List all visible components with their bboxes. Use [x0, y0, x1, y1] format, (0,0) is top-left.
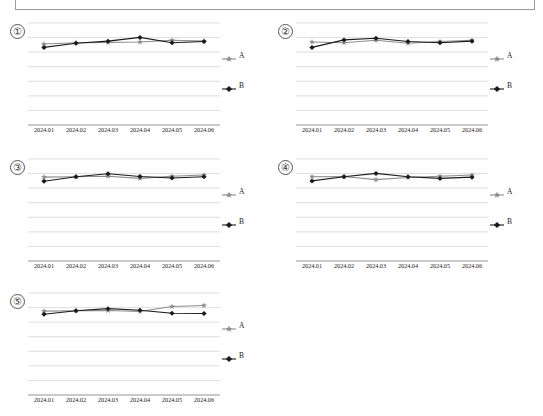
plot-area-1	[28, 22, 220, 126]
x-tick-label: 2024.05	[424, 262, 456, 274]
x-tick-label: 2024.01	[296, 126, 328, 138]
legend-label-b: B	[239, 81, 244, 90]
x-tick-label: 2024.04	[392, 126, 424, 138]
legend-label-a: A	[507, 51, 512, 60]
x-tick-label: 2024.03	[92, 262, 124, 274]
chart-panel-3: ③ 2024.01 2024.02 2024.03 2024.04 2024.0…	[10, 156, 260, 284]
x-tick-label: 2024.03	[360, 262, 392, 274]
panel-index-5: ⑤	[10, 294, 25, 309]
x-tick-label: 2024.02	[328, 262, 360, 274]
diamond-marker-icon	[490, 216, 504, 226]
x-tick-label: 2024.03	[92, 126, 124, 138]
chart-legend-4: A B	[490, 186, 530, 246]
legend-label-b: B	[507, 81, 512, 90]
header-rule-box	[15, 0, 535, 10]
x-tick-label: 2024.01	[28, 396, 60, 408]
x-tick-label: 2024.04	[124, 262, 156, 274]
x-tick-label: 2024.05	[156, 126, 188, 138]
legend-entry-b: B	[490, 80, 530, 90]
panel-index-4: ④	[278, 160, 293, 175]
chart-panel-5: ⑤ 2024.01 2024.02 2024.03 2024.04 2024.0…	[10, 290, 260, 416]
x-tick-label: 2024.02	[60, 396, 92, 408]
legend-label-b: B	[239, 351, 244, 360]
x-tick-label: 2024.01	[296, 262, 328, 274]
x-tick-label: 2024.04	[124, 396, 156, 408]
legend-label-a: A	[507, 187, 512, 196]
diamond-marker-icon	[490, 80, 504, 90]
legend-label-a: A	[239, 187, 244, 196]
x-tick-label: 2024.02	[60, 262, 92, 274]
x-tick-label: 2024.06	[456, 262, 488, 274]
diamond-marker-icon	[222, 216, 236, 226]
legend-label-a: A	[239, 51, 244, 60]
star-marker-icon	[490, 186, 504, 196]
legend-label-b: B	[507, 217, 512, 226]
x-axis-labels-3: 2024.01 2024.02 2024.03 2024.04 2024.05 …	[28, 262, 220, 274]
star-marker-icon	[222, 186, 236, 196]
legend-entry-b: B	[222, 216, 262, 226]
diamond-marker-icon	[222, 80, 236, 90]
x-axis-labels-5: 2024.01 2024.02 2024.03 2024.04 2024.05 …	[28, 396, 220, 408]
chart-legend-3: A B	[222, 186, 262, 246]
x-axis-labels-2: 2024.01 2024.02 2024.03 2024.04 2024.05 …	[296, 126, 488, 138]
x-tick-label: 2024.01	[28, 262, 60, 274]
plot-area-2	[296, 22, 488, 126]
legend-entry-b: B	[222, 350, 262, 360]
x-tick-label: 2024.03	[92, 396, 124, 408]
star-marker-icon	[222, 320, 236, 330]
x-axis-labels-1: 2024.01 2024.02 2024.03 2024.04 2024.05 …	[28, 126, 220, 138]
x-tick-label: 2024.02	[60, 126, 92, 138]
diamond-marker-icon	[222, 350, 236, 360]
legend-label-a: A	[239, 321, 244, 330]
x-tick-label: 2024.06	[188, 396, 220, 408]
x-tick-label: 2024.04	[124, 126, 156, 138]
star-marker-icon	[222, 50, 236, 60]
legend-entry-a: A	[490, 186, 530, 196]
star-marker-icon	[490, 50, 504, 60]
panel-index-2: ②	[278, 24, 293, 39]
x-axis-labels-4: 2024.01 2024.02 2024.03 2024.04 2024.05 …	[296, 262, 488, 274]
chart-panel-1: ① 2024.01 2024.02 2024.03 2024.04 2024.0…	[10, 20, 260, 148]
legend-entry-b: B	[490, 216, 530, 226]
panel-index-3: ③	[10, 160, 25, 175]
legend-entry-a: A	[490, 50, 530, 60]
plot-area-5	[28, 292, 220, 396]
x-tick-label: 2024.03	[360, 126, 392, 138]
x-tick-label: 2024.05	[424, 126, 456, 138]
legend-entry-b: B	[222, 80, 262, 90]
legend-entry-a: A	[222, 50, 262, 60]
chart-panel-2: ② 2024.01 2024.02 2024.03 2024.04 2024.0…	[278, 20, 528, 148]
legend-entry-a: A	[222, 320, 262, 330]
x-tick-label: 2024.01	[28, 126, 60, 138]
plot-area-3	[28, 158, 220, 262]
panel-index-1: ①	[10, 24, 25, 39]
chart-panel-4: ④ 2024.01 2024.02 2024.03 2024.04 2024.0…	[278, 156, 528, 284]
x-tick-label: 2024.06	[188, 262, 220, 274]
x-tick-label: 2024.04	[392, 262, 424, 274]
chart-legend-2: A B	[490, 50, 530, 110]
x-tick-label: 2024.05	[156, 262, 188, 274]
x-tick-label: 2024.06	[188, 126, 220, 138]
chart-page: ① 2024.01 2024.02 2024.03 2024.04 2024.0…	[0, 0, 543, 416]
chart-legend-1: A B	[222, 50, 262, 110]
chart-legend-5: A B	[222, 320, 262, 380]
legend-entry-a: A	[222, 186, 262, 196]
x-tick-label: 2024.02	[328, 126, 360, 138]
x-tick-label: 2024.05	[156, 396, 188, 408]
plot-area-4	[296, 158, 488, 262]
legend-label-b: B	[239, 217, 244, 226]
x-tick-label: 2024.06	[456, 126, 488, 138]
